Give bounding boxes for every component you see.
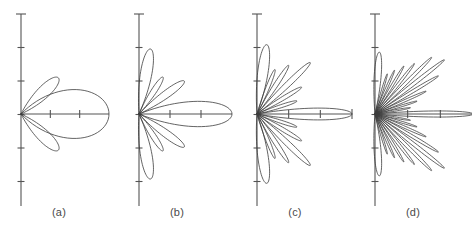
panel-d: (d): [354, 0, 472, 233]
panel-c: (c): [236, 0, 354, 233]
panel-d-label: (d): [354, 206, 472, 218]
panel-a: (a): [0, 0, 118, 233]
panel-b: (b): [118, 0, 236, 233]
panel-a-plot: [0, 0, 118, 206]
panel-d-plot: [354, 0, 472, 206]
panel-b-plot: [118, 0, 236, 206]
panel-b-label: (b): [118, 206, 236, 218]
panel-c-plot: [236, 0, 354, 206]
radiation-pattern-figure: (a) (b) (c) (d): [0, 0, 472, 233]
panel-a-label: (a): [0, 206, 118, 218]
panel-c-label: (c): [236, 206, 354, 218]
